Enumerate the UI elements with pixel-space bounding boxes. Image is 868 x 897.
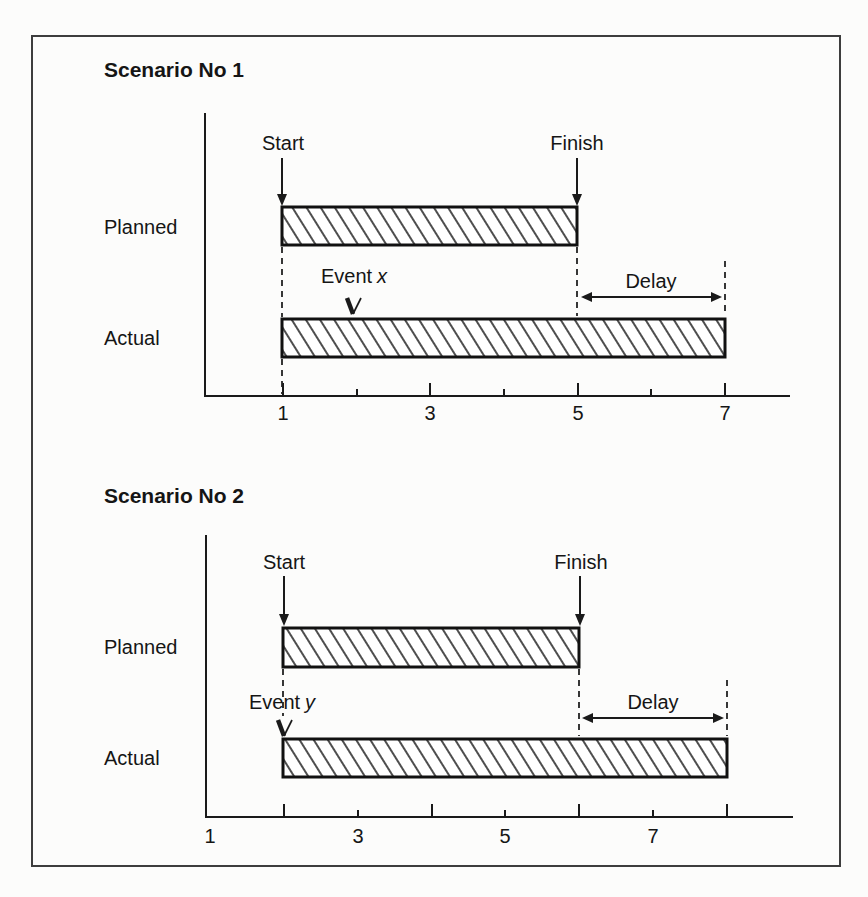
- s1-event-prefix: Event: [321, 265, 372, 287]
- s1-axis-label-7: 7: [695, 402, 755, 424]
- s1-actual-bar: [282, 319, 725, 357]
- s1-axis-label-5: 5: [548, 402, 608, 424]
- s1-axis-label-1: 1: [253, 402, 313, 424]
- s1-planned-bar: [282, 207, 577, 245]
- s2-planned-bar: [283, 628, 579, 667]
- s2-planned-row-label: Planned: [104, 636, 177, 658]
- s1-start-arrow-icon: [277, 158, 287, 206]
- s1-actual-row-label: Actual: [104, 327, 160, 349]
- s2-delay-label: Delay: [593, 691, 713, 713]
- s2-axis-label-5: 5: [475, 825, 535, 847]
- scenario-1-title: Scenario No 1: [104, 59, 244, 81]
- s1-event-label: Eventx: [294, 265, 414, 287]
- s1-event-marker-icon: [347, 298, 361, 314]
- s2-event-marker-icon: [278, 720, 292, 736]
- s2-event-variable: y: [305, 691, 315, 713]
- s2-event-label: Eventy: [222, 691, 342, 713]
- s1-delay-arrow-icon: [581, 292, 722, 302]
- s2-start-arrow-icon: [279, 576, 289, 626]
- s1-delay-label: Delay: [591, 270, 711, 292]
- s2-delay-arrow-icon: [582, 713, 724, 723]
- s2-actual-bar: [283, 739, 727, 777]
- s2-axis-label-3: 3: [328, 825, 388, 847]
- s2-event-prefix: Event: [249, 691, 300, 713]
- s1-event-variable: x: [377, 265, 387, 287]
- s2-axis-label-1: 1: [180, 825, 240, 847]
- s1-finish-label: Finish: [517, 132, 637, 154]
- s2-actual-row-label: Actual: [104, 747, 160, 769]
- s1-finish-arrow-icon: [572, 158, 582, 206]
- s2-finish-arrow-icon: [575, 576, 585, 626]
- s1-start-label: Start: [223, 132, 343, 154]
- s1-planned-row-label: Planned: [104, 216, 177, 238]
- s2-axis-label-7: 7: [623, 825, 683, 847]
- scenario-2-title: Scenario No 2: [104, 485, 244, 507]
- s2-finish-label: Finish: [521, 551, 641, 573]
- s2-start-label: Start: [224, 551, 344, 573]
- figure-page: { "colors": { "ink": "#1a1a1a", "paper":…: [0, 0, 868, 897]
- s1-axis-label-3: 3: [400, 402, 460, 424]
